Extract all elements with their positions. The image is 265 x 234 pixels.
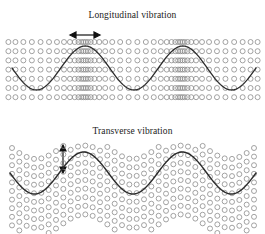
panel-title-transverse: Transverse vibration (0, 126, 265, 136)
transverse-medium-lattice (0, 142, 265, 234)
longitudinal-medium-lattice (0, 38, 265, 110)
vibration-figure: Longitudinal vibration Transverse vibrat… (0, 0, 265, 234)
panel-title-longitudinal: Longitudinal vibration (0, 10, 265, 20)
panel-transverse-vibration: Transverse vibration (0, 117, 265, 234)
panel-longitudinal-vibration: Longitudinal vibration (0, 0, 265, 117)
transverse-wave-curve (10, 152, 256, 194)
